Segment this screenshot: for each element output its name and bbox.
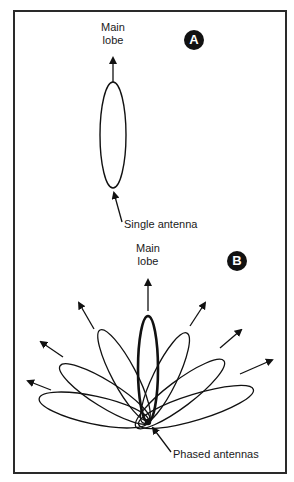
single-antenna-label: Single antenna — [124, 218, 197, 231]
arrow-right-2 — [220, 330, 241, 348]
side-lobe-left-3 — [36, 385, 151, 436]
main-lobe-label-a-line2: lobe — [95, 34, 131, 47]
main-lobe-label-b-line1: Main — [130, 242, 166, 255]
arrow-left-2 — [41, 342, 63, 357]
single-antenna-pattern — [100, 58, 126, 222]
main-lobe-label-b-line2: lobe — [130, 255, 166, 268]
side-lobe-left-1 — [89, 324, 158, 425]
arrow-left-3 — [28, 381, 51, 390]
arrow-right-1 — [190, 303, 205, 326]
arrow-left-1 — [79, 303, 94, 329]
phased-antenna-origin — [145, 419, 151, 425]
antenna-radiation-diagram — [0, 0, 294, 482]
arrow-right-3 — [240, 360, 272, 374]
single-main-lobe — [100, 82, 126, 188]
panel-b-badge: B — [227, 251, 247, 271]
single-antenna-pointer — [114, 193, 122, 222]
main-lobe-label-a-line1: Main — [95, 21, 131, 34]
phased-antennas-label: Phased antennas — [173, 448, 259, 461]
phased-antenna-pointer — [153, 428, 171, 452]
main-lobe-label-a: Main lobe — [95, 21, 131, 47]
panel-a-badge: A — [184, 30, 204, 50]
main-lobe-label-b: Main lobe — [130, 242, 166, 268]
